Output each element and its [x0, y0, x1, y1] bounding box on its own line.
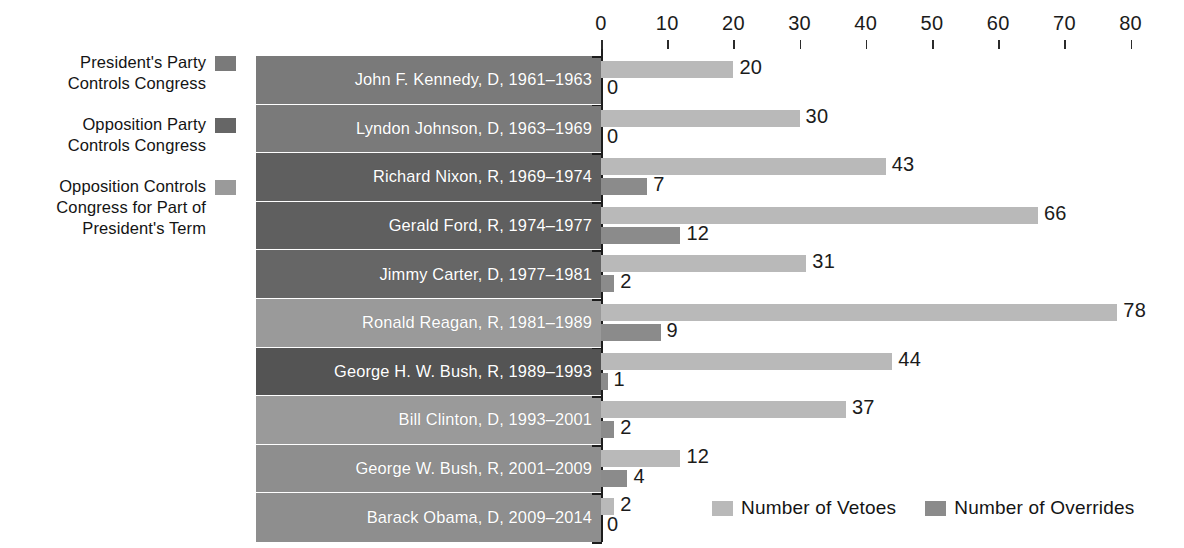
series-legend-label: Number of Overrides	[954, 497, 1134, 519]
veto-override-chart: President's Party Controls CongressOppos…	[0, 0, 1184, 548]
president-label: Lyndon Johnson, D, 1963–1969	[356, 119, 601, 138]
bar-overrides	[601, 470, 627, 487]
bar-group: 312	[601, 250, 1184, 299]
bar-overrides	[601, 227, 680, 244]
swatch-opposition-party-controls	[215, 118, 236, 133]
president-row-band: Jimmy Carter, D, 1977–1981	[256, 250, 601, 299]
bar-value-label: 12	[686, 445, 709, 468]
row-tick-mark	[592, 153, 602, 155]
bar-overrides	[601, 324, 661, 341]
bar-vetoes	[601, 110, 800, 127]
bar-group: 124	[601, 445, 1184, 494]
bar-value-label: 7	[653, 173, 664, 196]
x-tick-mark	[1131, 40, 1133, 49]
bar-value-label: 2	[620, 270, 631, 293]
row-tick-mark	[592, 299, 602, 301]
bar-value-label: 9	[667, 319, 678, 342]
row-tick-mark	[592, 396, 602, 398]
swatch-vetoes	[712, 501, 733, 516]
president-row-band: George H. W. Bush, R, 1989–1993	[256, 348, 601, 397]
president-label-column: John F. Kennedy, D, 1961–1963Lyndon John…	[256, 56, 601, 542]
category-legend: President's Party Controls CongressOppos…	[0, 52, 236, 259]
x-tick-label: 0	[595, 12, 606, 35]
bar-value-label: 2	[620, 416, 631, 439]
row-tick-mark	[592, 56, 602, 58]
x-tick-mark	[866, 40, 868, 49]
bar-value-label: 12	[686, 222, 709, 245]
president-label: Gerald Ford, R, 1974–1977	[389, 216, 601, 235]
legend-item-label: President's Party Controls Congress	[68, 52, 206, 94]
x-tick-mark	[932, 40, 934, 49]
president-row-band: Barack Obama, D, 2009–2014	[256, 493, 601, 542]
row-tick-mark	[592, 202, 602, 204]
bar-group: 200	[601, 56, 1184, 105]
bar-value-label: 31	[812, 250, 835, 273]
legend-item-0: President's Party Controls Congress	[0, 52, 236, 94]
legend-item-label: Opposition Party Controls Congress	[68, 114, 206, 156]
bar-value-label: 44	[898, 348, 921, 371]
bar-value-label: 66	[1044, 202, 1067, 225]
president-label: John F. Kennedy, D, 1961–1963	[355, 70, 601, 89]
bar-vetoes	[601, 353, 892, 370]
bar-value-label: 78	[1123, 299, 1146, 322]
x-tick-label: 60	[987, 12, 1010, 35]
legend-item-label: Opposition Controls Congress for Part of…	[56, 176, 206, 239]
bar-group: 441	[601, 348, 1184, 397]
x-tick-label: 80	[1119, 12, 1142, 35]
bar-group: 789	[601, 299, 1184, 348]
row-tick-mark	[592, 542, 602, 544]
x-tick-mark	[800, 40, 802, 49]
x-tick-mark	[998, 40, 1000, 49]
president-row-band: Lyndon Johnson, D, 1963–1969	[256, 105, 601, 154]
x-tick-label: 50	[921, 12, 944, 35]
president-row-band: George W. Bush, R, 2001–2009	[256, 445, 601, 494]
president-label: George H. W. Bush, R, 1989–1993	[334, 362, 601, 381]
bar-value-label: 20	[739, 56, 762, 79]
bar-value-label: 0	[607, 76, 618, 99]
president-label: Richard Nixon, R, 1969–1974	[373, 167, 601, 186]
x-tick-label: 40	[854, 12, 877, 35]
bar-value-label: 43	[892, 153, 915, 176]
series-legend: Number of VetoesNumber of Overrides	[712, 497, 1134, 519]
legend-item-1: Opposition Party Controls Congress	[0, 114, 236, 156]
swatch-president-party-controls	[215, 56, 236, 71]
bar-value-label: 30	[806, 105, 829, 128]
president-row-band: John F. Kennedy, D, 1961–1963	[256, 56, 601, 105]
bar-vetoes	[601, 207, 1038, 224]
bar-value-label: 0	[607, 513, 618, 536]
row-tick-mark	[592, 250, 602, 252]
bar-group: 437	[601, 153, 1184, 202]
row-tick-mark	[592, 105, 602, 107]
president-label: Barack Obama, D, 2009–2014	[367, 508, 601, 527]
swatch-overrides	[925, 501, 946, 516]
bar-value-label: 1	[614, 368, 625, 391]
bar-overrides	[601, 373, 608, 390]
bar-value-label: 0	[607, 125, 618, 148]
bar-value-label: 4	[633, 465, 644, 488]
bar-group: 372	[601, 396, 1184, 445]
x-tick-label: 10	[656, 12, 679, 35]
bar-group: 300	[601, 105, 1184, 154]
bar-value-label: 37	[852, 396, 875, 419]
bar-vetoes	[601, 61, 733, 78]
x-tick-label: 20	[722, 12, 745, 35]
plot-area: 200300437661231278944137212420	[601, 56, 1184, 542]
president-label: Bill Clinton, D, 1993–2001	[399, 410, 601, 429]
bar-group: 6612	[601, 202, 1184, 251]
series-legend-item: Number of Vetoes	[712, 497, 896, 519]
series-legend-item: Number of Overrides	[925, 497, 1134, 519]
swatch-opposition-part-term	[215, 180, 236, 195]
row-tick-mark	[592, 493, 602, 495]
x-tick-label: 70	[1053, 12, 1076, 35]
bar-vetoes	[601, 304, 1117, 321]
bar-vetoes	[601, 255, 806, 272]
bar-overrides	[601, 275, 614, 292]
x-tick-mark	[667, 40, 669, 49]
x-tick-mark	[1064, 40, 1066, 49]
president-label: George W. Bush, R, 2001–2009	[355, 459, 601, 478]
row-tick-mark	[592, 348, 602, 350]
x-tick-mark	[733, 40, 735, 49]
legend-item-2: Opposition Controls Congress for Part of…	[0, 176, 236, 239]
president-row-band: Gerald Ford, R, 1974–1977	[256, 202, 601, 251]
president-label: Ronald Reagan, R, 1981–1989	[362, 313, 601, 332]
